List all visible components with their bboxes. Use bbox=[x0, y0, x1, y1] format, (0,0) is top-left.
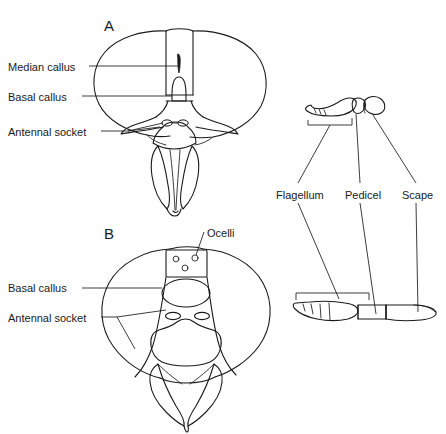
antenna-right-b bbox=[188, 364, 222, 426]
head-outline-b bbox=[102, 249, 270, 378]
antenna-folded-diagram bbox=[298, 96, 416, 183]
leader-scape-top bbox=[373, 115, 416, 183]
ocellar-plate bbox=[166, 250, 207, 277]
panel-a-head bbox=[82, 29, 266, 216]
leader-ocelli bbox=[196, 232, 204, 255]
label-ocelli: Ocelli bbox=[207, 227, 235, 239]
panel-letter-b: B bbox=[104, 226, 114, 242]
clypeus-b bbox=[151, 319, 221, 366]
vertex-top-edge bbox=[166, 29, 193, 31]
antennal-socket-left-b bbox=[166, 312, 181, 319]
extended-pedicel bbox=[358, 305, 386, 319]
leader-antennal-socket-b bbox=[101, 310, 166, 317]
panel-letter-a: A bbox=[104, 18, 114, 34]
leader-pedicel-top bbox=[356, 114, 360, 183]
leader-antennal-socket bbox=[101, 123, 163, 131]
folded-flagellum-bracket bbox=[308, 118, 352, 125]
figure-root: A B Median callus Basal callus Antennal … bbox=[0, 0, 446, 434]
ocellus-median bbox=[182, 265, 188, 271]
label-basal-callus-a: Basal callus bbox=[8, 91, 67, 103]
basal-callus-shape-b bbox=[162, 279, 210, 307]
antenna-mid-seam bbox=[170, 150, 180, 210]
basal-callus-shape bbox=[172, 77, 186, 101]
antenna-tips-b bbox=[184, 426, 188, 432]
antenna-left-b bbox=[150, 364, 184, 426]
extended-flagellum-bracket bbox=[296, 293, 369, 300]
extended-flagellum-segments bbox=[303, 303, 330, 320]
antennal-socket-right-b bbox=[195, 312, 210, 319]
folded-scape bbox=[364, 96, 384, 114]
antenna-tip bbox=[167, 209, 181, 216]
antenna-extended-diagram bbox=[293, 203, 436, 321]
leader-flagellum-top bbox=[298, 125, 330, 183]
extended-joint-pedicel bbox=[358, 305, 386, 319]
leader-socket-down-b bbox=[117, 317, 135, 349]
folded-flagellum bbox=[306, 98, 357, 116]
label-basal-callus-b: Basal callus bbox=[8, 282, 67, 294]
label-antennal-socket-b: Antennal socket bbox=[8, 312, 86, 324]
ocellus-right bbox=[192, 255, 198, 261]
clypeus bbox=[153, 122, 196, 149]
label-median-callus: Median callus bbox=[8, 61, 75, 73]
ocellus-left bbox=[173, 256, 179, 262]
face-lower-outline bbox=[121, 117, 163, 134]
right-compound-eye bbox=[190, 31, 266, 138]
label-pedicel: Pedicel bbox=[345, 189, 381, 201]
label-flagellum: Flagellum bbox=[276, 189, 324, 201]
median-callus-shape bbox=[177, 54, 180, 73]
label-scape: Scape bbox=[402, 189, 433, 201]
leader-scape-bottom bbox=[416, 203, 418, 312]
label-antennal-socket-a: Antennal socket bbox=[8, 126, 86, 138]
lower-head-b bbox=[160, 377, 215, 383]
left-compound-eye bbox=[94, 31, 170, 137]
frons-right-edge-b bbox=[207, 277, 236, 375]
panel-b-head bbox=[82, 232, 270, 432]
antenna-right bbox=[181, 146, 199, 209]
frons-lower bbox=[156, 101, 203, 117]
leader-flagellum-bottom bbox=[298, 203, 339, 299]
leader-pedicel-bottom bbox=[360, 203, 376, 314]
antenna-left bbox=[151, 146, 169, 209]
